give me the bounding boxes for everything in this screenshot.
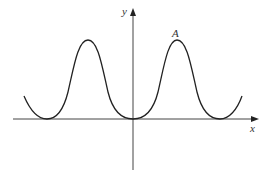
graph: y x A <box>0 0 263 176</box>
x-axis-label: x <box>249 122 255 134</box>
y-axis-arrow-icon <box>130 8 136 16</box>
y-axis-label: y <box>121 5 127 17</box>
point-a-label: A <box>171 27 179 39</box>
